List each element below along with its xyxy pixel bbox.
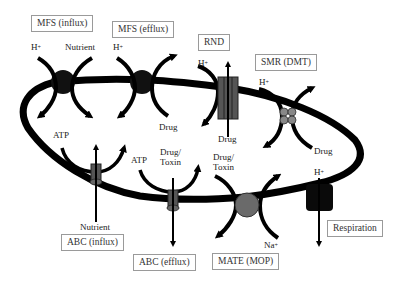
abc-efflux-atp: ATP [131, 155, 147, 165]
abc-efflux-drug-toxin: Drug/Toxin [160, 147, 181, 167]
label-mate: MATE (MOP) [212, 253, 279, 270]
rnd-drug: Drug [218, 134, 237, 144]
abc-influx-nutrient: Nutrient [80, 222, 110, 232]
label-smr: SMR (DMT) [255, 54, 317, 71]
smr-drug: Drug [314, 146, 333, 156]
abc-influx-transporter [62, 147, 124, 222]
label-rnd: RND [198, 34, 230, 51]
abc-influx-atp: ATP [53, 130, 69, 140]
label-abc-efflux: ABC (efflux) [133, 254, 196, 271]
mate-drug-toxin: Drug/Toxin [213, 152, 234, 172]
mfs-influx-nutrient: Nutrient [65, 42, 95, 52]
rnd-hplus: H+ [198, 58, 208, 68]
rnd-transporter [198, 64, 238, 137]
mate-na: Na+ [264, 240, 278, 250]
label-mfs-efflux: MFS (efflux) [112, 21, 174, 38]
respiration-hplus: H+ [314, 167, 324, 177]
mate-transporter [215, 176, 278, 238]
mfs-efflux-hplus: H+ [113, 42, 123, 52]
smr-hplus: H+ [259, 77, 269, 87]
label-mfs-influx: MFS (influx) [31, 15, 93, 32]
label-abc-influx: ABC (influx) [61, 234, 124, 251]
mfs-influx-hplus: H+ [31, 42, 41, 52]
abc-efflux-transporter [140, 168, 198, 244]
mfs-efflux-drug: Drug [159, 122, 178, 132]
mfs-efflux-transporter [117, 56, 174, 116]
label-respiration: Respiration [327, 220, 383, 237]
